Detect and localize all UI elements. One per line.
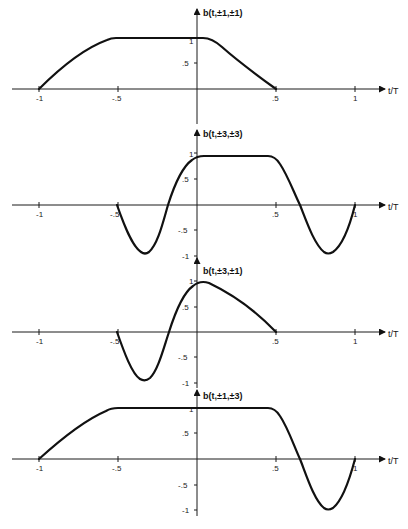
y-tick-label: 1 [189,150,194,159]
y-tick-label: -.5 [178,481,188,490]
x-tick-label: 1 [353,337,358,346]
panel-3: -1 -.5 .5 1 1 .5 -.5 -1 b(t,±3,±1) t/T [12,258,399,388]
y-tick-label: -1 [182,252,190,261]
y-tick-label: .5 [182,175,189,184]
y-ticks: 1 .5 -.5 -1 [178,405,197,515]
x-tick-label: .5 [272,210,279,219]
x-tick-label: -.5 [112,464,122,473]
panel-title: b(t,±1,±1) [203,8,242,18]
panel-title: b(t,±1,±3) [203,391,242,401]
panel-title: b(t,±3,±1) [203,266,242,276]
y-tick-label: .5 [182,59,189,68]
x-tick-label: .5 [272,94,279,103]
y-tick-label: -.5 [178,226,188,235]
panel-4: -1 -.5 .5 1 1 .5 -.5 -1 b(t,±1,±3) t/T [12,390,399,516]
x-tick-label: -1 [36,210,44,219]
x-axis-label: t/T [388,86,399,96]
x-tick-label: .5 [272,464,279,473]
x-axis-label: t/T [388,202,399,212]
y-tick-label: -1 [182,506,190,515]
x-tick-label: -1 [36,94,44,103]
x-tick-label: -1 [36,337,44,346]
y-tick-label: .5 [182,303,189,312]
x-axis-label: t/T [388,329,399,339]
y-tick-label: .5 [182,429,189,438]
y-tick-label: 1 [189,405,194,414]
y-ticks: 1 .5 [182,37,197,68]
y-tick-label: -1 [182,379,190,388]
x-tick-label: -.5 [112,94,122,103]
figure-canvas: -1 -.5 .5 1 1 .5 b(t,±1,±1) t/T -1 -.5 .… [0,0,408,529]
x-tick-label: .5 [272,337,279,346]
panel-2: -1 -.5 .5 1 1 .5 -.5 -1 b(t,±3,±3) t/T [12,129,399,262]
panel-1: -1 -.5 .5 1 1 .5 b(t,±1,±1) t/T [12,8,399,124]
y-tick-label: -.5 [178,353,188,362]
x-tick-label: 1 [353,94,358,103]
panel-title: b(t,±3,±3) [203,129,242,139]
x-tick-label: -1 [36,464,44,473]
x-axis-label: t/T [388,456,399,466]
waveform-curve [39,38,276,89]
